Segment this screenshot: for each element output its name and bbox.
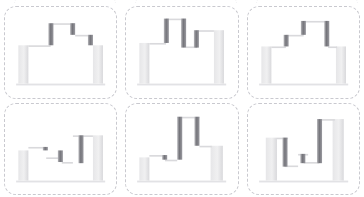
chart-panel-1[interactable]: Panel 1 xyxy=(4,6,117,99)
chart-panel-5[interactable]: Panel 5 xyxy=(125,103,238,196)
panel-2-plot xyxy=(126,7,237,98)
chart-panel-2[interactable]: Panel 2 xyxy=(125,6,238,99)
panel-1-plot xyxy=(5,7,116,98)
panel-4-plot xyxy=(5,104,116,195)
panel-6-plot xyxy=(248,104,359,195)
panel-grid: Panel 1 Panel 2 xyxy=(0,0,364,197)
panel-5-plot xyxy=(126,104,237,195)
panel-3-plot xyxy=(248,7,359,98)
chart-panel-6[interactable]: Panel 6 xyxy=(247,103,360,196)
chart-panel-4[interactable]: Panel 4 xyxy=(4,103,117,196)
chart-panel-3[interactable]: Panel 3 xyxy=(247,6,360,99)
